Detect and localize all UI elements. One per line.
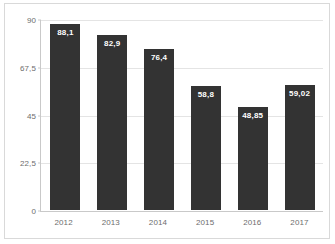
y-axis-tick-label: 22,5 [20,159,36,168]
x-axis-tick-label-2013: 2013 [87,212,134,232]
bar-value-label: 88,1 [57,28,73,37]
bar-series: 88,182,976,458,848,8559,02 [42,20,323,210]
bar-slot: 82,9 [89,20,136,210]
x-axis-tick-label-2016: 2016 [229,212,276,232]
x-axis-tick-label-2017: 2017 [276,212,323,232]
y-axis-tick-label: 45 [27,111,36,120]
x-axis-tick-label-2012: 2012 [40,212,87,232]
y-axis-tick-mark [38,163,41,164]
bar-slot: 88,1 [42,20,89,210]
bar-value-label: 58,8 [198,90,214,99]
plot-area: 022,54567,590 88,182,976,458,848,8559,02 [40,20,323,212]
y-axis-tick-label: 67,5 [20,63,36,72]
x-axis-tick-label-2014: 2014 [134,212,181,232]
bar-value-label: 82,9 [104,39,120,48]
bar-2014[interactable]: 76,4 [144,49,174,210]
y-axis-tick-mark [38,20,41,21]
chart-frame: 022,54567,590 88,182,976,458,848,8559,02… [4,3,330,239]
bar-value-label: 59,02 [289,89,310,98]
y-axis-tick-mark [38,67,41,68]
bar-2017[interactable]: 59,02 [285,85,315,210]
bar-value-label: 76,4 [151,53,167,62]
bar-slot: 58,8 [182,20,229,210]
y-axis-tick-mark [38,115,41,116]
bar-2016[interactable]: 48,85 [238,107,268,210]
y-axis-tick-label: 0 [31,207,36,216]
x-axis-tick-labels: 201220132014201520162017 [40,212,323,232]
bar-slot: 59,02 [276,20,323,210]
y-axis-tick-label: 90 [27,16,36,25]
x-axis-tick-label-2015: 2015 [182,212,229,232]
bar-slot: 76,4 [136,20,183,210]
bar-2013[interactable]: 82,9 [97,35,127,210]
bar-value-label: 48,85 [242,111,263,120]
bar-2015[interactable]: 58,8 [191,86,221,210]
bar-2012[interactable]: 88,1 [50,24,80,210]
bar-slot: 48,85 [229,20,276,210]
